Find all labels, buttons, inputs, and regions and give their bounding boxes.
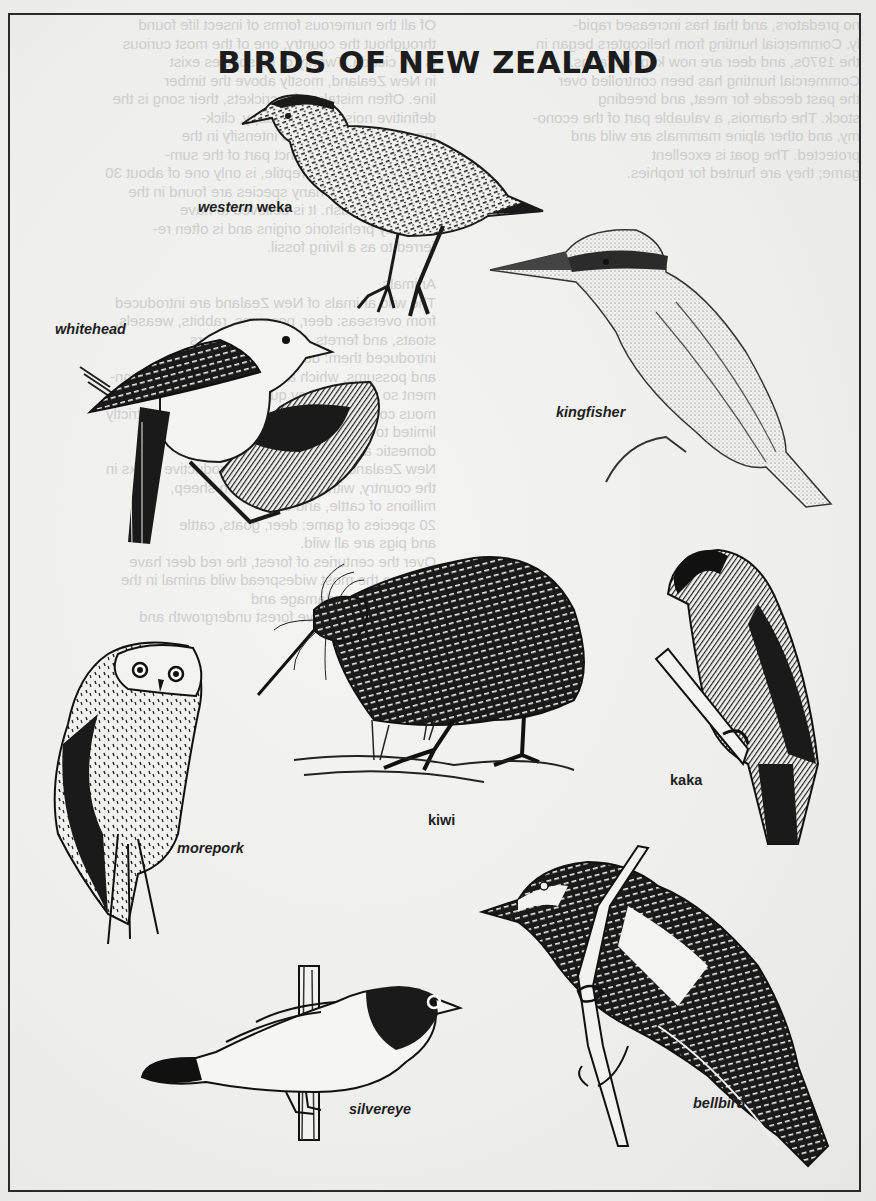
western-weka-label-suffix: weka	[253, 199, 293, 215]
morepork-label-text: morepork	[177, 840, 244, 856]
whitehead-label: whitehead	[55, 321, 126, 337]
kiwi-label-text: kiwi	[428, 812, 455, 828]
silvereye-label-text: silvereye	[349, 1101, 411, 1117]
bellbird-illustration	[478, 846, 838, 1176]
kaka-illustration	[648, 544, 838, 854]
poster-page: no predators, and that has increased rap…	[0, 0, 876, 1201]
western-weka-label-prefix: western	[198, 199, 253, 215]
morepork-illustration	[48, 634, 208, 954]
poster-title: BIRDS OF NEW ZEALAND	[0, 44, 876, 80]
whitehead-illustration	[70, 312, 390, 552]
morepork-label: morepork	[177, 840, 244, 856]
kaka-label: kaka	[670, 772, 702, 788]
bellbird-label-text: bellbird	[693, 1095, 745, 1111]
kingfisher-label-text: kingfisher	[556, 404, 625, 420]
kaka-label-text: kaka	[670, 772, 702, 788]
silvereye-illustration	[136, 962, 466, 1142]
kiwi-label: kiwi	[428, 812, 455, 828]
silvereye-label: silvereye	[349, 1101, 411, 1117]
western-weka-label: western weka	[198, 199, 292, 215]
kiwi-illustration	[254, 550, 614, 800]
kingfisher-label: kingfisher	[556, 404, 625, 420]
kingfisher-illustration	[486, 222, 836, 512]
bellbird-label: bellbird	[693, 1095, 745, 1111]
whitehead-label-text: whitehead	[55, 321, 126, 337]
